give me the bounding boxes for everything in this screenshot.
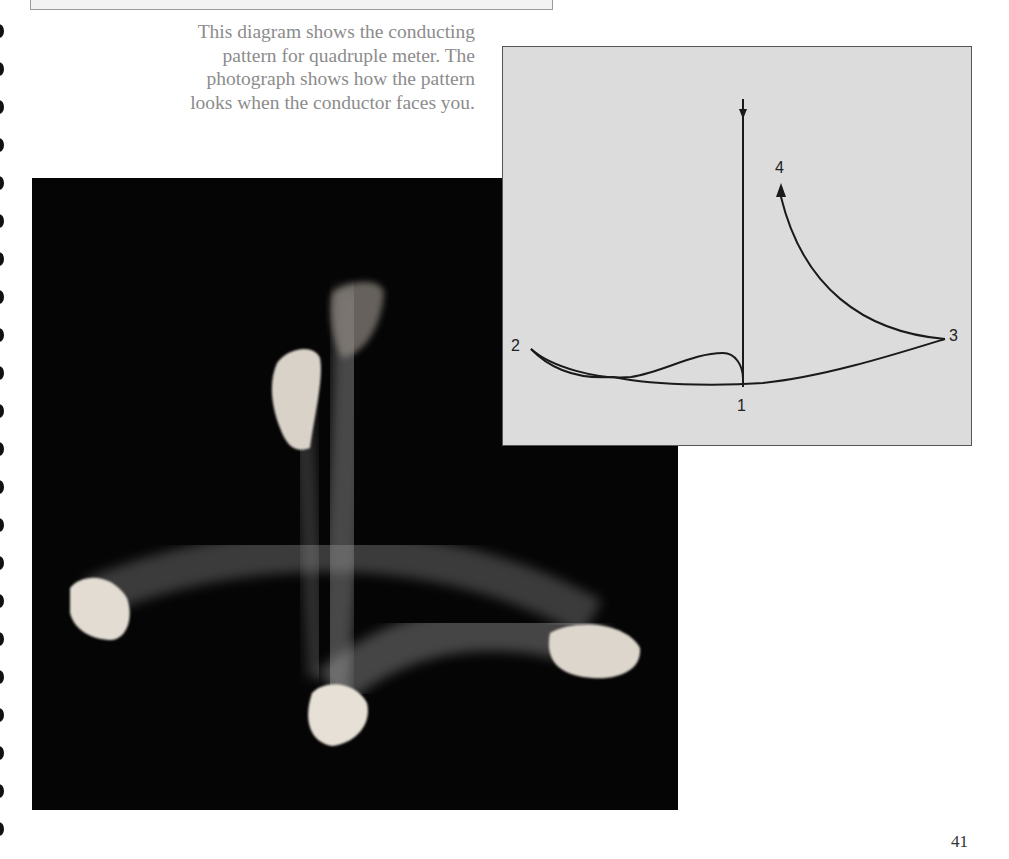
binding-hole bbox=[0, 138, 4, 152]
binding-hole bbox=[0, 252, 4, 266]
caption-line: photograph shows how the pattern bbox=[110, 67, 475, 91]
hand-beat-3 bbox=[549, 625, 640, 679]
binding-hole bbox=[0, 404, 4, 418]
binding-hole bbox=[0, 480, 4, 494]
down-arrow-icon bbox=[739, 109, 747, 119]
caption-line: pattern for quadruple meter. The bbox=[110, 44, 475, 68]
hand-beat-1 bbox=[308, 684, 368, 746]
beat-label-2: 2 bbox=[511, 337, 520, 355]
top-box bbox=[30, 0, 553, 10]
binding-hole bbox=[0, 746, 4, 760]
binding-hole bbox=[0, 24, 4, 38]
binding-hole bbox=[0, 442, 4, 456]
binding-hole bbox=[0, 366, 4, 380]
pattern-paths bbox=[503, 47, 973, 447]
binding-hole bbox=[0, 290, 4, 304]
caption-line: This diagram shows the conducting bbox=[110, 20, 475, 44]
binding-hole bbox=[0, 328, 4, 342]
binding-hole bbox=[0, 62, 4, 76]
binding-hole bbox=[0, 176, 4, 190]
binding-hole bbox=[0, 784, 4, 798]
conducting-pattern-diagram: 1 2 3 4 bbox=[502, 46, 972, 446]
binding-hole bbox=[0, 214, 4, 228]
beat-label-4: 4 bbox=[775, 159, 784, 177]
figure-caption: This diagram shows the conducting patter… bbox=[110, 20, 475, 114]
hand-top bbox=[330, 282, 384, 358]
binding-hole bbox=[0, 632, 4, 646]
up-arrow-icon bbox=[776, 183, 786, 197]
binding-hole bbox=[0, 594, 4, 608]
beat-label-3: 3 bbox=[949, 327, 958, 345]
binding-hole bbox=[0, 670, 4, 684]
path-1-to-2 bbox=[531, 349, 743, 379]
binding-hole bbox=[0, 708, 4, 722]
binding-hole bbox=[0, 518, 4, 532]
path-3-to-4 bbox=[781, 197, 945, 339]
caption-line: looks when the conductor faces you. bbox=[110, 91, 475, 115]
binding-hole bbox=[0, 556, 4, 570]
binding-hole bbox=[0, 822, 4, 836]
binding-hole bbox=[0, 100, 4, 114]
page-number: 41 bbox=[951, 832, 968, 852]
beat-label-1: 1 bbox=[737, 397, 746, 415]
